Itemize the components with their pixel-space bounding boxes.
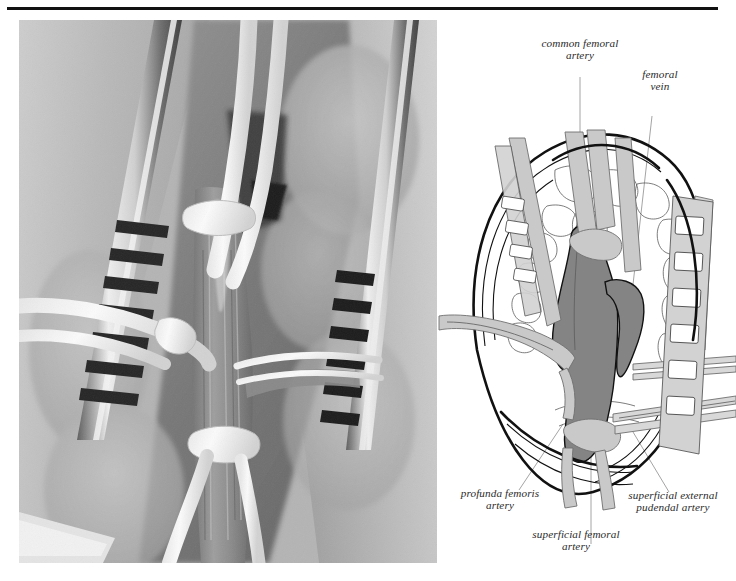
operative-photograph [19,20,437,563]
label-common-femoral-artery: common femoral artery [522,37,638,62]
figure-page: .ol{fill:none;stroke:#111111;stroke-widt… [0,0,736,581]
photograph-canvas [19,20,437,563]
label-profunda-femoris-artery: profunda femoris artery [440,487,560,512]
label-femoral-vein: femoral vein [618,68,702,93]
label-superficial-femoral-artery: superficial femoral artery [516,528,636,553]
label-superficial-external-pudendal-artery: superficial external pudendal artery [612,489,734,514]
top-rule-divider [7,7,718,10]
